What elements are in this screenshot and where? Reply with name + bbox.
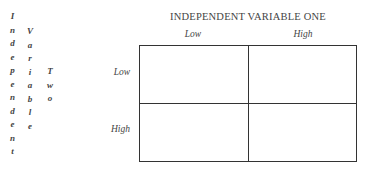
column-level-high: High bbox=[249, 29, 357, 39]
letter: b bbox=[28, 93, 33, 107]
letter: T bbox=[47, 65, 53, 79]
row-level-low: Low bbox=[90, 67, 130, 77]
letter: r bbox=[28, 52, 32, 66]
letter: V bbox=[27, 25, 33, 39]
cell-low-high bbox=[249, 46, 357, 103]
two-by-two-grid bbox=[139, 45, 357, 162]
letter: d bbox=[10, 105, 15, 119]
letter: a bbox=[28, 79, 33, 93]
letter: d bbox=[10, 37, 15, 51]
letter: o bbox=[48, 92, 53, 106]
letter: e bbox=[28, 120, 32, 134]
column-level-low: Low bbox=[139, 29, 247, 39]
letter: a bbox=[28, 39, 33, 53]
cell-high-high bbox=[249, 104, 357, 161]
cell-low-low bbox=[140, 46, 248, 103]
letter: w bbox=[47, 79, 53, 93]
letter: i bbox=[29, 66, 32, 80]
letter: n bbox=[10, 91, 15, 105]
row-axis-word-two: T w o bbox=[47, 65, 53, 106]
row-axis-word-variable: V a r i a b l e bbox=[27, 25, 33, 133]
letter: e bbox=[11, 78, 15, 92]
letter: I bbox=[11, 10, 15, 24]
row-axis-word-independent: I n d e p e n d e n t bbox=[10, 10, 15, 159]
letter: n bbox=[10, 132, 15, 146]
row-level-high: High bbox=[90, 124, 130, 134]
letter: l bbox=[29, 106, 32, 120]
letter: n bbox=[10, 24, 15, 38]
column-axis-title: INDEPENDENT VARIABLE ONE bbox=[139, 11, 357, 22]
letter: p bbox=[10, 64, 15, 78]
letter: e bbox=[11, 51, 15, 65]
cell-high-low bbox=[140, 104, 248, 161]
letter: e bbox=[11, 118, 15, 132]
letter: t bbox=[11, 145, 14, 159]
